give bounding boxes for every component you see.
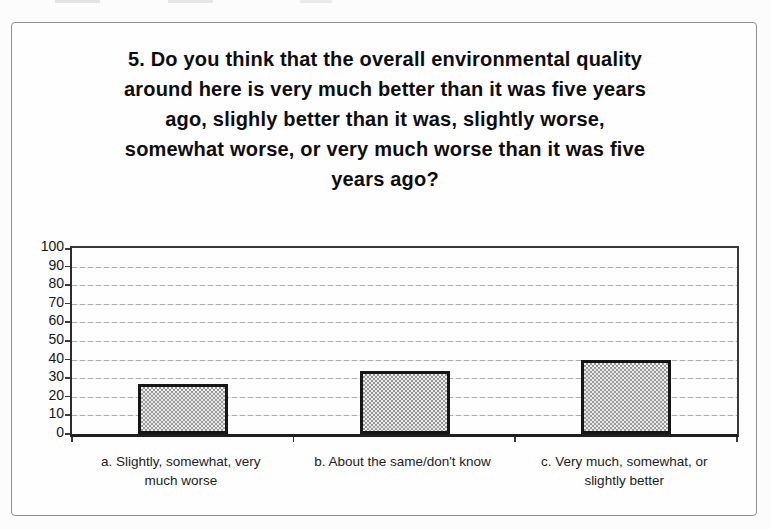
scan-artifact: [168, 0, 213, 3]
gridline: [72, 285, 737, 286]
y-tick-label: 80: [12, 275, 64, 292]
scan-artifact: [300, 0, 332, 3]
gridline: [72, 304, 737, 305]
x-axis-tick: [736, 437, 738, 442]
y-axis-tick: [65, 303, 70, 305]
y-tick-label: 70: [12, 294, 64, 311]
y-axis-tick: [65, 321, 70, 323]
y-tick-label: 100: [12, 238, 64, 255]
x-category-label: a. Slightly, somewhat, very much worse: [65, 452, 297, 490]
y-axis-tick: [65, 433, 70, 435]
y-axis-tick: [65, 266, 70, 268]
y-tick-label: 20: [12, 387, 64, 404]
x-category-label: c. Very much, somewhat, or slightly bett…: [508, 452, 740, 490]
plot-area: [70, 246, 739, 437]
y-axis-tick: [65, 248, 70, 250]
scanned-page: { "chart_data": { "type": "bar", "title"…: [0, 0, 770, 529]
bar-2: [360, 371, 450, 434]
y-axis-tick: [65, 340, 70, 342]
y-tick-label: 90: [12, 257, 64, 274]
y-axis-tick: [65, 284, 70, 286]
gridline: [72, 267, 737, 268]
y-tick-label: 10: [12, 405, 64, 422]
y-tick-label: 60: [12, 312, 64, 329]
x-axis-labels: a. Slightly, somewhat, very much worseb.…: [70, 452, 735, 500]
bar-3: [581, 360, 671, 434]
scan-artifact: [55, 0, 100, 3]
x-axis-tick: [71, 437, 73, 442]
y-axis-tick: [65, 414, 70, 416]
y-tick-label: 40: [12, 350, 64, 367]
y-tick-label: 50: [12, 331, 64, 348]
x-axis-tick: [293, 437, 295, 442]
y-tick-label: 30: [12, 368, 64, 385]
gridline: [72, 322, 737, 323]
chart-title: 5. Do you think that the overall environ…: [65, 44, 705, 194]
x-category-label: b. About the same/don't know: [287, 452, 519, 471]
x-axis-tick: [514, 437, 516, 442]
gridline: [72, 341, 737, 342]
y-axis-tick: [65, 377, 70, 379]
y-axis-tick: [65, 359, 70, 361]
bar-1: [138, 384, 228, 434]
y-tick-label: 0: [12, 424, 64, 441]
y-axis-tick: [65, 396, 70, 398]
y-axis-labels: 0102030405060708090100: [12, 246, 64, 432]
